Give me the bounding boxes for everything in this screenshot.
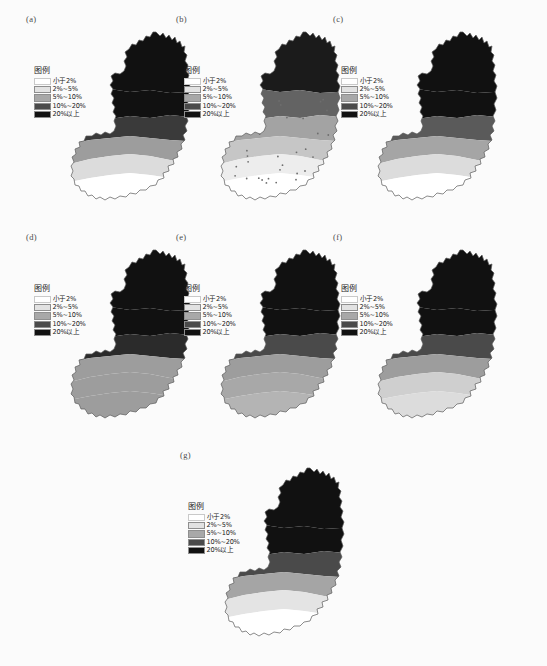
legend-swatch [34, 86, 51, 93]
legend-row: 20%以上 [341, 329, 407, 337]
legend-swatch [341, 103, 358, 110]
map-panel-b: (b) 图例 小于2%2%~5%5%~10%10%~20%20%以上 [168, 14, 338, 224]
legend-label: 5%~10% [53, 94, 82, 101]
legend-row: 5%~10% [34, 94, 100, 102]
legend-swatch [184, 304, 201, 311]
map-bands [377, 246, 507, 436]
legend-swatch [184, 103, 201, 110]
legend-swatch [341, 329, 358, 336]
legend-label: 小于2% [360, 296, 383, 303]
legend-rows: 小于2%2%~5%5%~10%10%~20%20%以上 [341, 77, 407, 119]
legend-title: 图例 [341, 66, 407, 76]
legend-swatch [341, 111, 358, 118]
legend-label: 10%~20% [207, 539, 240, 546]
legend-label: 10%~20% [53, 103, 86, 110]
legend-rows: 小于2%2%~5%5%~10%10%~20%20%以上 [34, 295, 100, 337]
map-point-marker [320, 101, 322, 103]
panel-label-c: (c) [333, 14, 343, 24]
legend-label: 20%以上 [360, 111, 387, 118]
legend-swatch [184, 321, 201, 328]
map-point-marker [246, 178, 248, 180]
legend-row: 5%~10% [188, 530, 254, 538]
legend-label: 20%以上 [207, 547, 234, 554]
legend-label: 10%~20% [203, 103, 236, 110]
legend-row: 20%以上 [188, 547, 254, 555]
map-point-marker [266, 182, 268, 184]
legend-label: 10%~20% [360, 103, 393, 110]
legend-row: 20%以上 [34, 329, 100, 337]
map-point-marker [278, 100, 280, 102]
legend-swatch [34, 304, 51, 311]
legend-swatch [34, 312, 51, 319]
legend-swatch [184, 111, 201, 118]
legend-row: 5%~10% [341, 94, 407, 102]
legend-swatch [341, 78, 358, 85]
legend-swatch [184, 312, 201, 319]
legend-label: 小于2% [203, 296, 226, 303]
legend-rows: 小于2%2%~5%5%~10%10%~20%20%以上 [184, 77, 250, 119]
legend-swatch [34, 103, 51, 110]
legend-row: 5%~10% [341, 312, 407, 320]
legend-label: 2%~5% [53, 86, 78, 93]
legend-label: 20%以上 [203, 329, 230, 336]
legend-label: 2%~5% [207, 522, 232, 529]
legend-swatch [341, 312, 358, 319]
legend-swatch [188, 530, 205, 537]
province-map [377, 246, 507, 431]
map-panel-c: (c) 图例 小于2%2%~5%5%~10%10%~20%20%以上 [325, 14, 495, 224]
legend-label: 10%~20% [53, 321, 86, 328]
map-legend: 图例 小于2%2%~5%5%~10%10%~20%20%以上 [34, 284, 100, 337]
map-point-marker [280, 104, 282, 106]
legend-row: 20%以上 [184, 329, 250, 337]
legend-swatch [188, 547, 205, 554]
panel-label-b: (b) [176, 14, 187, 24]
legend-rows: 小于2%2%~5%5%~10%10%~20%20%以上 [341, 295, 407, 337]
map-point-marker [305, 148, 307, 150]
map-point-marker [312, 156, 314, 158]
legend-swatch [188, 514, 205, 521]
map-panel-g: (g) 图例 小于2%2%~5%5%~10%10%~20%20%以上 [172, 450, 342, 660]
legend-title: 图例 [184, 66, 250, 76]
legend-swatch [34, 321, 51, 328]
legend-swatch [34, 94, 51, 101]
legend-label: 小于2% [207, 514, 230, 521]
legend-label: 20%以上 [53, 111, 80, 118]
legend-label: 2%~5% [53, 304, 78, 311]
legend-label: 小于2% [360, 78, 383, 85]
map-point-marker [275, 182, 277, 184]
legend-row: 5%~10% [34, 312, 100, 320]
legend-title: 图例 [184, 284, 250, 294]
map-bands [224, 464, 354, 654]
map-point-marker [268, 178, 270, 180]
panel-label-d: (d) [26, 232, 37, 242]
legend-label: 小于2% [203, 78, 226, 85]
legend-label: 5%~10% [360, 312, 389, 319]
map-point-marker [277, 156, 279, 158]
legend-label: 2%~5% [203, 86, 228, 93]
legend-swatch [188, 522, 205, 529]
legend-swatch [341, 94, 358, 101]
legend-swatch [184, 86, 201, 93]
legend-title: 图例 [34, 66, 100, 76]
map-legend: 图例 小于2%2%~5%5%~10%10%~20%20%以上 [184, 284, 250, 337]
map-point-marker [246, 150, 248, 152]
legend-label: 20%以上 [53, 329, 80, 336]
legend-swatch [184, 296, 201, 303]
panel-label-a: (a) [26, 14, 36, 24]
legend-rows: 小于2%2%~5%5%~10%10%~20%20%以上 [34, 77, 100, 119]
map-panel-e: (e) 图例 小于2%2%~5%5%~10%10%~20%20%以上 [168, 232, 338, 442]
map-point-marker [302, 118, 304, 120]
legend-label: 10%~20% [360, 321, 393, 328]
legend-swatch [34, 78, 51, 85]
map-legend: 图例 小于2%2%~5%5%~10%10%~20%20%以上 [188, 502, 254, 555]
map-point-marker [258, 177, 260, 179]
figure-canvas: (a) 图例 小于2%2%~5%5%~10%10%~20%20%以上 (b) 图… [0, 0, 547, 666]
map-point-marker [296, 151, 298, 153]
map-legend: 图例 小于2%2%~5%5%~10%10%~20%20%以上 [34, 66, 100, 119]
map-point-marker [322, 99, 324, 101]
legend-title: 图例 [341, 284, 407, 294]
map-bands [377, 28, 507, 218]
legend-label: 2%~5% [360, 304, 385, 311]
map-legend: 图例 小于2%2%~5%5%~10%10%~20%20%以上 [184, 66, 250, 119]
legend-row: 5%~10% [184, 312, 250, 320]
